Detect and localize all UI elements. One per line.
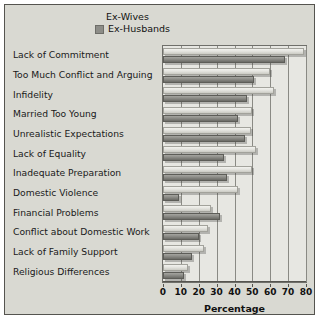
bar-group — [163, 185, 306, 205]
category-label: Infidelity — [13, 84, 159, 104]
bar-group — [163, 126, 306, 146]
x-tick-label: 10 — [175, 287, 188, 297]
bar-group — [163, 224, 306, 244]
bar-ex-husbands — [163, 154, 224, 161]
bar-group — [163, 47, 306, 67]
x-tick-label: 70 — [282, 287, 295, 297]
chart-legend: Ex-Wives Ex-Husbands — [95, 11, 245, 35]
bar-ex-husbands — [163, 95, 247, 102]
bar-group — [163, 204, 306, 224]
category-label: Married Too Young — [13, 104, 159, 124]
bar-ex-husbands — [163, 213, 220, 220]
bar-ex-wives — [163, 68, 270, 75]
bar-ex-husbands — [163, 56, 285, 63]
bar-ex-wives — [163, 205, 211, 212]
x-axis-title: Percentage — [162, 303, 307, 314]
bar-ex-wives — [163, 264, 188, 271]
category-label: Inadequate Preparation — [13, 163, 159, 183]
x-tick-label: 80 — [300, 287, 313, 297]
x-tick-label: 60 — [264, 287, 277, 297]
bar-ex-wives — [163, 48, 304, 55]
bar-ex-wives — [163, 245, 204, 252]
category-label: Lack of Equality — [13, 143, 159, 163]
bar-ex-husbands — [163, 174, 227, 181]
plot-area — [162, 45, 307, 283]
bar-ex-wives — [163, 127, 251, 134]
bar-ex-husbands — [163, 194, 179, 201]
bar-ex-wives — [163, 225, 208, 232]
bar-ex-husbands — [163, 115, 238, 122]
category-label: Religious Differences — [13, 261, 159, 281]
bar-ex-wives — [163, 146, 256, 153]
bar-ex-husbands — [163, 135, 245, 142]
gridline — [306, 46, 307, 282]
bar-group — [163, 165, 306, 185]
bars-layer — [163, 46, 306, 282]
legend-swatch-husbands-icon — [95, 25, 104, 34]
x-axis-line — [163, 281, 306, 282]
bar-ex-husbands — [163, 272, 184, 279]
bar-ex-husbands — [163, 76, 254, 83]
category-axis-labels: Lack of CommitmentToo Much Conflict and … — [13, 45, 159, 283]
category-label: Unrealistic Expectations — [13, 124, 159, 144]
bar-ex-husbands — [163, 233, 199, 240]
x-tick-label: 50 — [246, 287, 259, 297]
bar-ex-wives — [163, 107, 252, 114]
bar-group — [163, 145, 306, 165]
x-tick-label: 0 — [160, 287, 166, 297]
category-label: Financial Problems — [13, 202, 159, 222]
bar-ex-wives — [163, 87, 274, 94]
bar-group — [163, 67, 306, 87]
bar-group — [163, 244, 306, 264]
x-tick-label: 20 — [192, 287, 205, 297]
legend-label-ex-husbands: Ex-Husbands — [108, 23, 170, 35]
bar-ex-husbands — [163, 253, 192, 260]
x-tick-label: 40 — [228, 287, 241, 297]
bar-group — [163, 86, 306, 106]
bar-group — [163, 106, 306, 126]
x-axis-ticks: 01020304050607080 — [162, 284, 307, 298]
category-label: Conflict about Domestic Work — [13, 222, 159, 242]
legend-item-ex-husbands: Ex-Husbands — [95, 23, 245, 35]
chart-container: Ex-Wives Ex-Husbands Lack of CommitmentT… — [4, 4, 315, 315]
category-label: Domestic Violence — [13, 183, 159, 203]
category-label: Lack of Commitment — [13, 45, 159, 65]
category-label: Lack of Family Support — [13, 242, 159, 262]
legend-item-ex-wives: Ex-Wives — [95, 11, 245, 23]
category-label: Too Much Conflict and Arguing — [13, 65, 159, 85]
legend-label-ex-wives: Ex-Wives — [106, 11, 149, 23]
x-tick-label: 30 — [210, 287, 223, 297]
bar-ex-wives — [163, 186, 238, 193]
bar-ex-wives — [163, 166, 252, 173]
